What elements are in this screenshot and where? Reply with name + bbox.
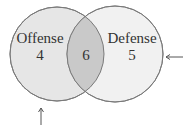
offense-only-value: 4: [14, 47, 66, 64]
defense-only-value: 5: [104, 47, 160, 64]
up-arrow-icon: [39, 108, 44, 125]
defense-label: Defense: [104, 30, 160, 47]
offense-label: Offense: [14, 30, 66, 47]
right-arrow-icon: [166, 55, 183, 60]
intersection-value: 6: [76, 47, 96, 64]
